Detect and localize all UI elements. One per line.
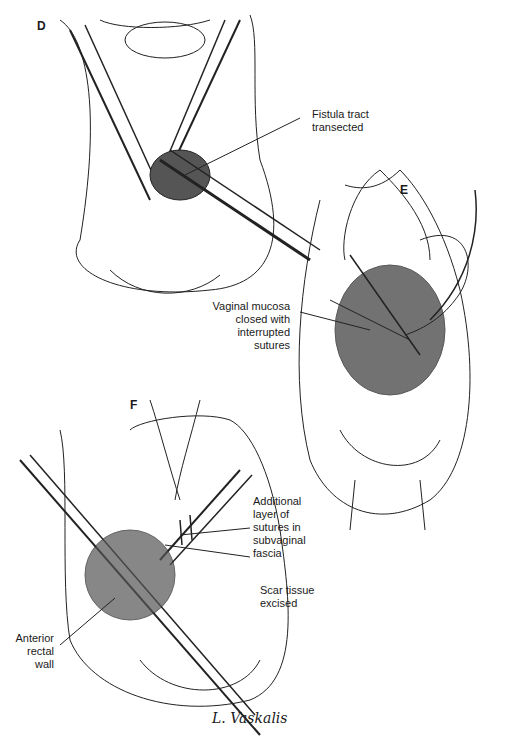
label-vaginal-mucosa: Vaginal mucosa closed with interrupted s… [206, 300, 290, 352]
panel-label-f: F [130, 398, 137, 412]
panel-label-d: D [37, 19, 46, 33]
artist-signature: L. Vaskalis [212, 710, 288, 726]
label-additional-layer: Additional layer of sutures in subvagina… [253, 495, 306, 560]
panel-label-e: E [400, 183, 408, 197]
label-scar-tissue: Scar tissue excised [260, 584, 314, 610]
label-fistula-tract: Fistula tract transected [312, 108, 369, 134]
surgical-illustration [0, 0, 520, 744]
label-anterior-rectal-wall: Anterior rectal wall [4, 632, 54, 671]
